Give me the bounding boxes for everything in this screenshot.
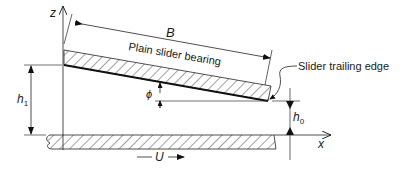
trailing-edge-callout: Slider trailing edge	[270, 60, 389, 99]
outlet-film-label: h0	[293, 110, 305, 126]
trailing-edge-label: Slider trailing edge	[298, 60, 389, 72]
inlet-film-dimension: h1	[17, 65, 62, 135]
angle-label: ϕ	[146, 88, 152, 100]
velocity-indicator: U	[137, 150, 184, 164]
slider-bearing-diagram: z B Plain slider bearing ϕ Slider traili…	[0, 0, 400, 169]
outlet-film-dimension: h0	[286, 88, 305, 160]
x-axis-label: x	[317, 137, 325, 151]
slider-pad: Plain slider bearing	[64, 40, 271, 101]
x-axis: x	[274, 135, 331, 151]
z-axis-label: z	[49, 6, 56, 20]
velocity-label: U	[155, 150, 164, 164]
angle-indicator: ϕ	[146, 83, 160, 108]
runner-plate	[47, 135, 276, 149]
z-axis: z	[49, 6, 63, 150]
inlet-film-label: h1	[17, 92, 29, 108]
length-label: B	[166, 25, 175, 40]
